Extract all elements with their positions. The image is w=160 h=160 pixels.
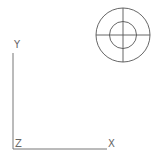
z-axis-label: Z bbox=[15, 139, 22, 149]
target-symbol[interactable] bbox=[96, 8, 150, 62]
drawing-canvas[interactable] bbox=[0, 0, 160, 160]
x-axis-label: X bbox=[108, 139, 115, 149]
ucs-axes-icon bbox=[13, 53, 107, 149]
y-axis-label: Y bbox=[14, 40, 20, 50]
